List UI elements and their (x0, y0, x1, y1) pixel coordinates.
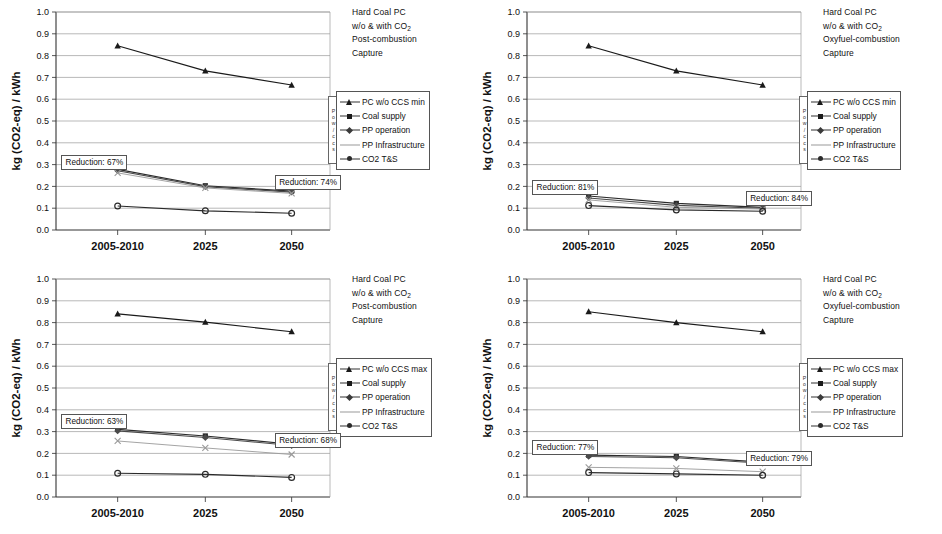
legend-marker-icon (340, 96, 360, 108)
legend-item[interactable]: PP Infrastructure (811, 405, 898, 419)
svg-text:0.2: 0.2 (507, 182, 520, 192)
svg-text:0.7: 0.7 (36, 73, 49, 83)
legend-marker-icon (811, 363, 831, 375)
legend-marker-icon (340, 406, 360, 418)
reduction-callout: Reduction: 84% (746, 191, 812, 206)
svg-text:0.8: 0.8 (507, 51, 520, 61)
panel-title-line: w/o & with CO2 (352, 20, 470, 34)
svg-text:2050: 2050 (750, 507, 774, 519)
svg-text:0.3: 0.3 (36, 427, 49, 437)
legend-marker-icon (340, 420, 360, 432)
svg-text:0.5: 0.5 (36, 383, 49, 393)
legend-marker-icon (811, 139, 831, 151)
legend-item[interactable]: PC w/o CCS min (811, 95, 896, 109)
legend-marker-icon (340, 363, 360, 375)
svg-text:0.2: 0.2 (36, 449, 49, 459)
svg-text:0.2: 0.2 (36, 182, 49, 192)
svg-text:0.8: 0.8 (36, 318, 49, 328)
legend-item[interactable]: PC w/o CCS min (340, 95, 425, 109)
legend-item[interactable]: PP operation (811, 390, 898, 404)
reduction-callout: Reduction: 63% (61, 414, 127, 429)
svg-text:2025: 2025 (664, 507, 688, 519)
legend-marker-icon (811, 153, 831, 165)
svg-text:kg (CO2-eq) / kWh: kg (CO2-eq) / kWh (10, 71, 22, 170)
legend-item[interactable]: CO2 T&S (340, 419, 427, 433)
svg-text:0.4: 0.4 (36, 138, 49, 148)
legend-item[interactable]: PP operation (340, 390, 427, 404)
svg-text:1.0: 1.0 (36, 274, 49, 284)
legend-item-label: CO2 T&S (833, 154, 869, 164)
panel-title-top-right: Hard Coal PCw/o & with CO2Oxyfuel-combus… (823, 6, 941, 60)
legend-marker-icon (340, 139, 360, 151)
svg-text:0.3: 0.3 (507, 160, 520, 170)
svg-text:0.1: 0.1 (36, 203, 49, 213)
svg-text:0.1: 0.1 (36, 470, 49, 480)
legend-item-label: Coal supply (362, 111, 406, 121)
chart-panel-top-left: 1.00.90.80.70.60.50.40.30.20.10.02005-20… (0, 0, 471, 267)
svg-text:2050: 2050 (750, 240, 774, 252)
legend-item[interactable]: Coal supply (811, 109, 896, 123)
panel-title-line: Hard Coal PC (823, 6, 941, 20)
processes-tab-letter: s (332, 413, 335, 419)
svg-text:0.5: 0.5 (507, 116, 520, 126)
legend-marker-icon (811, 420, 831, 432)
svg-text:0.0: 0.0 (507, 225, 520, 235)
figure-four-panel-lca-chart: 1.00.90.80.70.60.50.40.30.20.10.02005-20… (0, 0, 942, 534)
panel-title-line: Capture (823, 314, 941, 328)
svg-text:kg (CO2-eq) / kWh: kg (CO2-eq) / kWh (481, 338, 493, 437)
legend-item[interactable]: PC w/o CCS max (340, 362, 427, 376)
legend-item[interactable]: Coal supply (811, 376, 898, 390)
legend-item-label: Coal supply (833, 111, 877, 121)
legend-bottom-left[interactable]: PC w/o CCS maxCoal supplyPP operationPP … (336, 358, 432, 437)
legend-item-label: PP operation (833, 392, 881, 402)
svg-text:0.6: 0.6 (36, 94, 49, 104)
legend-item-label: PP Infrastructure (362, 140, 425, 150)
reduction-callout: Reduction: 74% (275, 175, 341, 190)
legend-item[interactable]: PP operation (811, 123, 896, 137)
svg-text:2050: 2050 (279, 507, 303, 519)
panel-title-line: Post-combustion (352, 300, 470, 314)
processes-tab-letter: s (803, 146, 806, 152)
legend-item[interactable]: CO2 T&S (811, 152, 896, 166)
svg-text:0.9: 0.9 (507, 296, 520, 306)
legend-item[interactable]: Coal supply (340, 109, 425, 123)
legend-item[interactable]: PP Infrastructure (811, 138, 896, 152)
legend-bottom-right[interactable]: PC w/o CCS maxCoal supplyPP operationPP … (807, 358, 903, 437)
legend-item[interactable]: PP Infrastructure (340, 138, 425, 152)
svg-text:2005-2010: 2005-2010 (562, 507, 615, 519)
svg-text:2005-2010: 2005-2010 (91, 507, 144, 519)
legend-marker-icon (340, 391, 360, 403)
legend-item-label: PP Infrastructure (833, 407, 896, 417)
legend-marker-icon (340, 377, 360, 389)
legend-marker-icon (811, 124, 831, 136)
legend-item[interactable]: PP operation (340, 123, 425, 137)
svg-text:0.6: 0.6 (36, 361, 49, 371)
legend-marker-icon (811, 391, 831, 403)
chart-panel-bottom-left: 1.00.90.80.70.60.50.40.30.20.10.02005-20… (0, 267, 471, 534)
legend-top-left[interactable]: PC w/o CCS minCoal supplyPP operationPP … (336, 91, 430, 170)
legend-item[interactable]: CO2 T&S (340, 152, 425, 166)
svg-text:0.3: 0.3 (36, 160, 49, 170)
svg-text:0.7: 0.7 (36, 340, 49, 350)
legend-top-right[interactable]: PC w/o CCS minCoal supplyPP operationPP … (807, 91, 901, 170)
panel-title-line: Capture (823, 47, 941, 61)
legend-marker-icon (811, 377, 831, 389)
svg-text:kg (CO2-eq) / kWh: kg (CO2-eq) / kWh (481, 71, 493, 170)
svg-text:2005-2010: 2005-2010 (562, 240, 615, 252)
svg-text:0.0: 0.0 (36, 225, 49, 235)
svg-text:2005-2010: 2005-2010 (91, 240, 144, 252)
processes-tab-letter: s (803, 413, 806, 419)
legend-item-label: PP operation (362, 392, 410, 402)
svg-text:0.1: 0.1 (507, 470, 520, 480)
svg-text:0.9: 0.9 (36, 29, 49, 39)
legend-item[interactable]: PP Infrastructure (340, 405, 427, 419)
legend-item[interactable]: Coal supply (340, 376, 427, 390)
legend-item[interactable]: PC w/o CCS max (811, 362, 898, 376)
svg-text:1.0: 1.0 (507, 7, 520, 17)
legend-item-label: PP operation (362, 125, 410, 135)
chart-panel-top-right: 1.00.90.80.70.60.50.40.30.20.10.02005-20… (471, 0, 942, 267)
legend-item-label: PC w/o CCS min (362, 97, 425, 107)
legend-marker-icon (811, 406, 831, 418)
legend-item[interactable]: CO2 T&S (811, 419, 898, 433)
legend-item-label: PC w/o CCS max (362, 364, 427, 374)
